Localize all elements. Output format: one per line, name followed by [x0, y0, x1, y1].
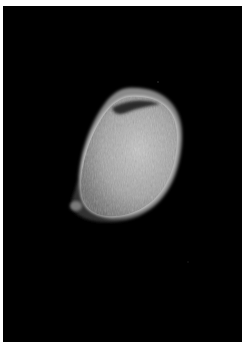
seed-hilum: [70, 201, 82, 211]
seed-specimen: [0, 0, 246, 348]
